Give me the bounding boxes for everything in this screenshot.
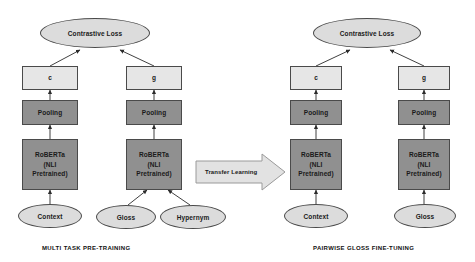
- input-hypernym-node: Hypernym: [160, 205, 226, 229]
- edge-c-to-loss-2: [316, 50, 350, 66]
- edge-hypernym-to-encoder: [168, 190, 190, 205]
- roberta-encoder-left: RoBERTa (NLI Pretrained): [22, 139, 78, 190]
- roberta-encoder-right-2: RoBERTa (NLI Pretrained): [398, 139, 450, 190]
- roberta-line-1: RoBERTa: [139, 150, 169, 159]
- edge-g-to-loss: [120, 50, 154, 66]
- contrastive-loss-node-2: Contrastive Loss: [313, 18, 421, 48]
- gloss-embedding-box-2: g: [398, 66, 450, 90]
- diagram-canvas: Contrastive Loss c g Pooling Pooling RoB…: [0, 0, 475, 262]
- input-gloss-node-2: Gloss: [394, 204, 456, 228]
- roberta-line-1: RoBERTa: [409, 150, 439, 159]
- context-embedding-box: c: [22, 66, 78, 90]
- roberta-encoder-left-2: RoBERTa (NLI Pretrained): [290, 139, 342, 190]
- roberta-encoder-right: RoBERTa (NLI Pretrained): [126, 139, 182, 190]
- input-context-node: Context: [18, 204, 82, 228]
- pooling-box-left: Pooling: [22, 100, 78, 125]
- edge-g-to-loss-2: [390, 50, 424, 66]
- panel-label-pairwise-gloss-finetuning: PAIRWISE GLOSS FINE-TUNING: [313, 245, 414, 251]
- roberta-line-1: RoBERTa: [301, 150, 331, 159]
- pooling-box-left-2: Pooling: [290, 100, 342, 125]
- edge-gloss-to-encoder: [128, 190, 147, 205]
- context-embedding-box-2: c: [290, 66, 342, 90]
- edge-c-to-loss: [50, 50, 80, 66]
- roberta-line-2: (NLI: [43, 160, 56, 169]
- panel-label-multi-task-pretraining: MULTI TASK PRE-TRAINING: [42, 245, 131, 251]
- roberta-line-2: (NLI: [147, 160, 160, 169]
- roberta-line-3: Pretrained): [406, 169, 441, 178]
- contrastive-loss-node: Contrastive Loss: [40, 18, 150, 48]
- roberta-line-2: (NLI: [309, 160, 322, 169]
- roberta-line-3: Pretrained): [32, 169, 67, 178]
- roberta-line-3: Pretrained): [298, 169, 333, 178]
- gloss-embedding-box: g: [126, 66, 182, 90]
- pooling-box-right: Pooling: [126, 100, 182, 125]
- pooling-box-right-2: Pooling: [398, 100, 450, 125]
- transfer-learning-label: Transfer Learning: [205, 169, 257, 175]
- roberta-line-3: Pretrained): [136, 169, 171, 178]
- input-context-node-2: Context: [284, 204, 348, 228]
- input-gloss-node: Gloss: [96, 205, 156, 229]
- roberta-line-1: RoBERTa: [35, 150, 65, 159]
- roberta-line-2: (NLI: [417, 160, 430, 169]
